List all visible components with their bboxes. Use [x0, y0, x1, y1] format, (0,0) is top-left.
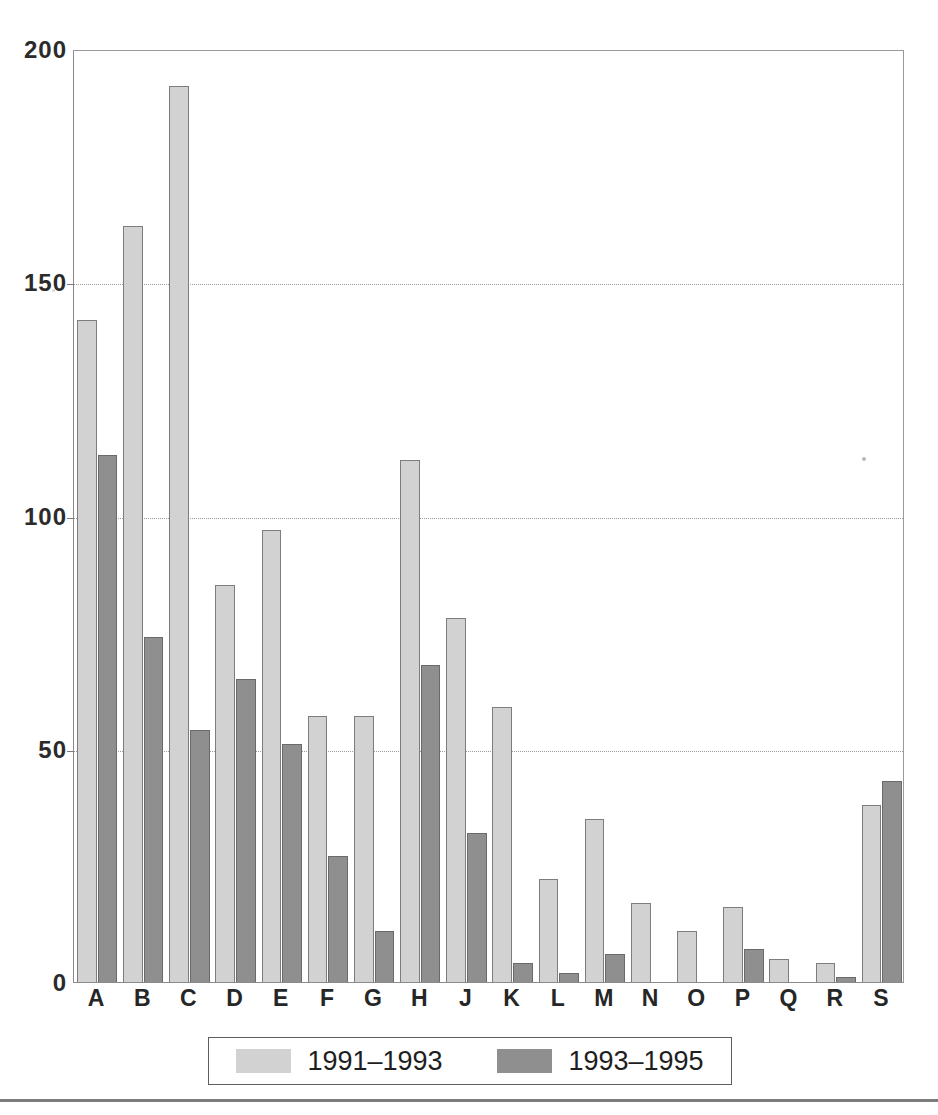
x-tick-label: E — [255, 987, 307, 1010]
dark-gray-swatch-icon — [497, 1049, 552, 1073]
bar-group — [262, 51, 302, 982]
bar — [492, 707, 512, 982]
x-tick-label: H — [393, 987, 445, 1010]
bar — [190, 730, 210, 982]
x-tick-label: N — [624, 987, 676, 1010]
bar — [282, 744, 302, 982]
x-tick-label: G — [347, 987, 399, 1010]
light-gray-swatch-icon — [236, 1049, 291, 1073]
bar-group — [215, 51, 255, 982]
bar-group — [677, 51, 717, 982]
scan-speck — [862, 457, 866, 461]
bar-group — [769, 51, 809, 982]
bar-group — [539, 51, 579, 982]
bar — [375, 931, 395, 982]
y-tick-label: 200 — [24, 38, 67, 62]
legend-label: 1991–1993 — [307, 1048, 442, 1075]
y-tick-label: 0 — [53, 971, 67, 995]
bar — [308, 716, 328, 982]
x-tick-label: L — [532, 987, 584, 1010]
x-tick-label: K — [485, 987, 537, 1010]
y-axis: 200150100500 — [0, 0, 67, 1000]
bar — [446, 618, 466, 982]
x-tick-label: A — [70, 987, 122, 1010]
bar — [816, 963, 836, 982]
bar-group — [723, 51, 763, 982]
bar — [421, 665, 441, 982]
x-tick-label: R — [809, 987, 861, 1010]
bar — [144, 637, 164, 982]
x-tick-label: O — [670, 987, 722, 1010]
y-tick-label: 50 — [38, 738, 67, 762]
page-bottom-rule — [0, 1099, 938, 1102]
bar — [677, 931, 697, 982]
x-tick-label: B — [116, 987, 168, 1010]
x-tick-label: F — [301, 987, 353, 1010]
bar-group — [308, 51, 348, 982]
x-tick-label: Q — [762, 987, 814, 1010]
bar — [354, 716, 374, 982]
bar-group — [492, 51, 532, 982]
legend-label: 1993–1995 — [568, 1048, 703, 1075]
bar — [169, 86, 189, 982]
bar — [400, 460, 420, 982]
legend-entry: 1993–1995 — [497, 1048, 703, 1075]
y-tick-label: 100 — [24, 505, 67, 529]
bar-group — [631, 51, 671, 982]
bar-group — [862, 51, 902, 982]
bar — [559, 973, 579, 982]
bar-group — [123, 51, 163, 982]
x-axis-category-labels: ABCDEFGHJKLMNOPQRS — [73, 987, 904, 1021]
bar-group — [169, 51, 209, 982]
bar — [77, 320, 97, 982]
bar — [836, 977, 856, 982]
bar — [98, 455, 118, 982]
chart-legend: 1991–1993 1993–1995 — [208, 1037, 732, 1085]
bar — [236, 679, 256, 982]
x-tick-label: S — [855, 987, 907, 1010]
bar — [539, 879, 559, 982]
bar — [605, 954, 625, 982]
plot-area — [73, 50, 904, 983]
bar-group — [816, 51, 856, 982]
x-tick-label: P — [716, 987, 768, 1010]
bars-layer — [74, 51, 903, 982]
bar — [882, 781, 902, 982]
bar-group — [446, 51, 486, 982]
bar-group — [354, 51, 394, 982]
x-tick-label: D — [208, 987, 260, 1010]
x-tick-label: C — [162, 987, 214, 1010]
x-tick-label: J — [439, 987, 491, 1010]
bar — [585, 819, 605, 982]
y-tick-mark — [67, 518, 74, 519]
y-tick-label: 150 — [24, 271, 67, 295]
bar — [215, 585, 235, 982]
x-tick-label: M — [578, 987, 630, 1010]
bar — [467, 833, 487, 982]
legend-entry: 1991–1993 — [236, 1048, 442, 1075]
bar — [328, 856, 348, 982]
bar — [723, 907, 743, 982]
scan-speck — [52, 289, 55, 292]
bar — [862, 805, 882, 982]
bar — [744, 949, 764, 982]
bar — [631, 903, 651, 982]
bar — [513, 963, 533, 982]
chart-page: 200150100500 ABCDEFGHJKLMNOPQRS 1991–199… — [0, 0, 938, 1115]
bar-group — [400, 51, 440, 982]
bar — [262, 530, 282, 983]
y-tick-mark — [67, 751, 74, 752]
y-tick-mark — [67, 284, 74, 285]
bar — [123, 226, 143, 982]
bar-group — [585, 51, 625, 982]
bar-group — [77, 51, 117, 982]
bar — [769, 959, 789, 982]
